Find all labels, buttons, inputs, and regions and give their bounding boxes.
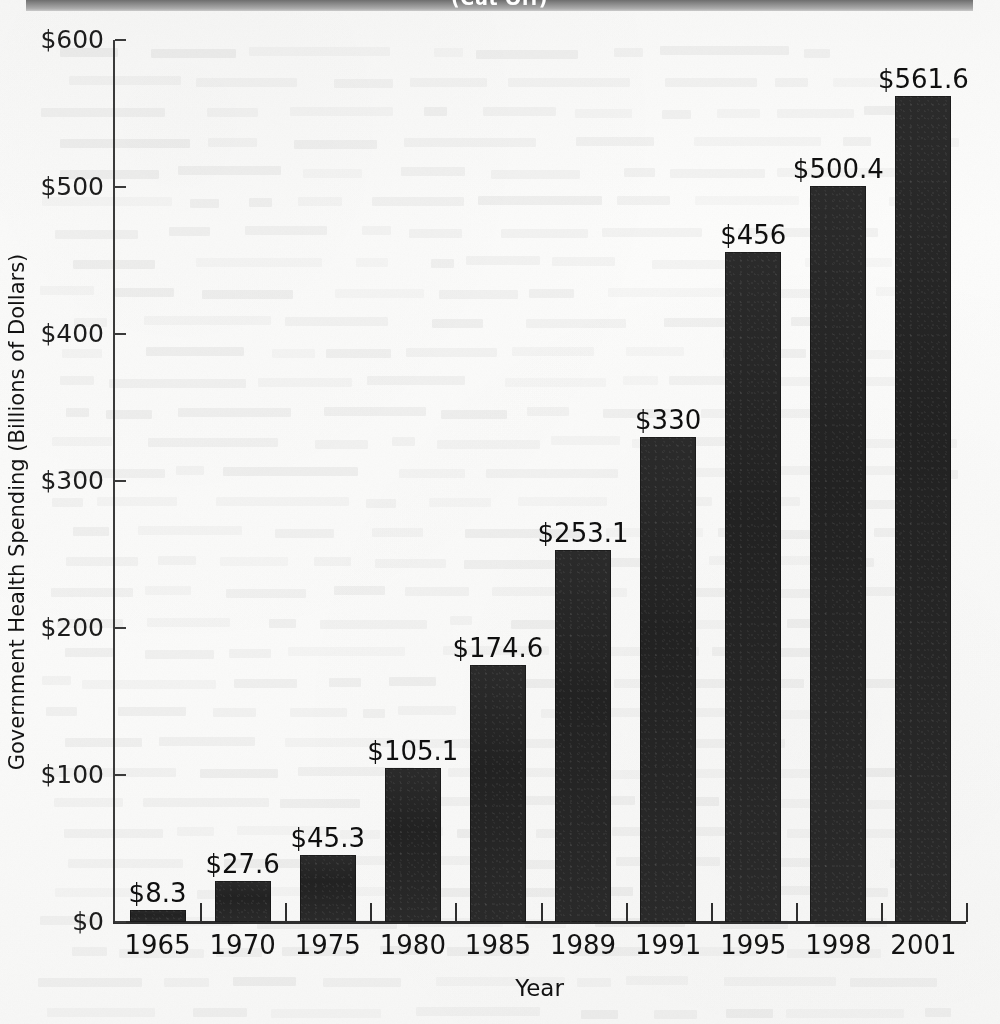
bar-value-label: $45.3 — [248, 825, 408, 851]
y-axis-tick — [115, 39, 126, 41]
y-axis-title: Government Health Spending (Billions of … — [0, 0, 34, 1024]
x-axis-tick — [541, 903, 543, 922]
x-axis-tick-label: 1991 — [626, 932, 711, 958]
x-axis-tick-label: 1970 — [200, 932, 285, 958]
x-axis-tick — [626, 903, 628, 922]
y-axis-title-text: Government Health Spending (Billions of … — [5, 254, 29, 771]
x-axis-tick — [796, 903, 798, 922]
bar — [725, 252, 781, 922]
y-axis-tick — [115, 186, 126, 188]
bar — [810, 186, 866, 922]
x-axis-tick-label: 1998 — [796, 932, 881, 958]
bar — [130, 910, 186, 922]
bar — [215, 881, 271, 922]
bar-value-label: $174.6 — [418, 635, 578, 661]
x-axis-title: Year — [113, 975, 966, 1001]
bar — [895, 96, 951, 922]
bar-value-label: $253.1 — [503, 520, 663, 546]
x-axis-tick-label: 1995 — [711, 932, 796, 958]
y-axis-tick — [115, 333, 126, 335]
x-axis-tick-label: 1989 — [541, 932, 626, 958]
x-axis-tick — [881, 903, 883, 922]
bar — [300, 855, 356, 922]
y-axis-line — [113, 40, 115, 924]
bar-value-label: $330 — [588, 407, 748, 433]
bar — [385, 768, 441, 922]
x-axis-tick — [370, 903, 372, 922]
bar-value-label: $27.6 — [163, 851, 323, 877]
x-axis-tick — [285, 903, 287, 922]
x-axis-tick-label: 1985 — [455, 932, 540, 958]
x-axis-tick — [455, 903, 457, 922]
bar-value-label: $105.1 — [333, 738, 493, 764]
bar — [555, 550, 611, 922]
bar-chart-plot-area: $0$100$200$300$400$500$600 1965197019751… — [0, 0, 1000, 1024]
x-axis-tick-label: 1975 — [285, 932, 370, 958]
y-axis-tick — [115, 921, 126, 923]
x-axis-tick-label: 1965 — [115, 932, 200, 958]
y-axis-tick — [115, 627, 126, 629]
x-axis-tick-label: 1980 — [370, 932, 455, 958]
bar-value-label: $8.3 — [78, 880, 238, 906]
x-axis-tick — [200, 903, 202, 922]
y-axis-tick — [115, 774, 126, 776]
bar — [640, 437, 696, 922]
x-axis-tick-label: 2001 — [881, 932, 966, 958]
x-axis-tick — [711, 903, 713, 922]
y-axis-tick — [115, 480, 126, 482]
bar-value-label: $456 — [673, 222, 833, 248]
x-axis-tick — [966, 903, 968, 922]
bar — [470, 665, 526, 922]
bar-value-label: $561.6 — [843, 66, 1000, 92]
bar-value-label: $500.4 — [758, 156, 918, 182]
